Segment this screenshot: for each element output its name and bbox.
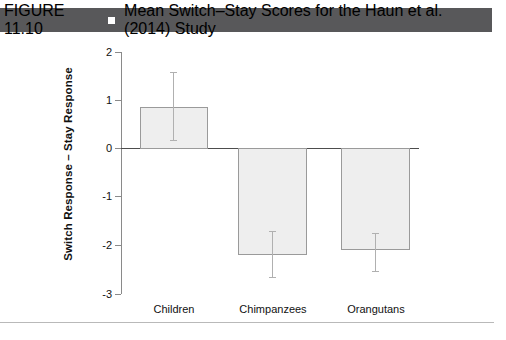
square-bullet-icon bbox=[108, 17, 115, 24]
y-tick-neg3: -3 bbox=[92, 289, 112, 299]
error-cap-upper-children bbox=[170, 72, 177, 73]
y-tick-neg2: -2 bbox=[92, 240, 112, 250]
y-tick-neg1: -1 bbox=[92, 191, 112, 201]
error-cap-lower-children bbox=[170, 140, 177, 141]
footer-divider bbox=[0, 322, 494, 323]
y-tick-mark-neg3 bbox=[115, 294, 121, 295]
error-cap-upper-chimpanzees bbox=[269, 231, 276, 232]
y-tick-2: 2 bbox=[92, 47, 112, 57]
bar-children[interactable] bbox=[140, 107, 208, 149]
error-cap-upper-orangutans bbox=[372, 233, 379, 234]
error-cap-lower-orangutans bbox=[372, 271, 379, 272]
x-label-chimpanzees: Chimpanzees bbox=[228, 303, 318, 315]
error-bar-children bbox=[173, 72, 174, 140]
error-bar-chimpanzees bbox=[272, 231, 273, 277]
y-tick-1: 1 bbox=[92, 95, 112, 105]
y-axis-title: Switch Response – Stay Response bbox=[62, 19, 80, 309]
bar-chart: Switch Response – Stay Response 2 1 0 -1… bbox=[0, 32, 506, 322]
x-label-children: Children bbox=[134, 303, 214, 315]
error-cap-lower-chimpanzees bbox=[269, 277, 276, 278]
y-axis-spine bbox=[121, 52, 122, 294]
error-bar-orangutans bbox=[375, 233, 376, 271]
y-tick-0: 0 bbox=[92, 143, 112, 153]
x-label-orangutans: Orangutans bbox=[331, 303, 421, 315]
